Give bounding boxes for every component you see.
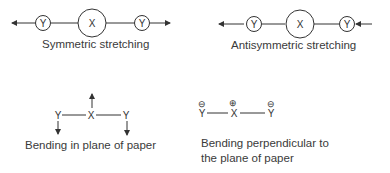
bending-perpendicular-caption-line2: the plane of paper	[201, 151, 329, 166]
svg-text:Y: Y	[268, 108, 275, 119]
bending-perpendicular-caption-line1: Bending perpendicular to	[201, 136, 329, 151]
svg-text:Y: Y	[55, 110, 62, 121]
antisymmetric-stretching-molecule: Y X Y	[219, 10, 372, 38]
bending-in-plane-caption: Bending in plane of paper	[25, 139, 156, 151]
svg-text:X: X	[231, 108, 238, 119]
symmetric-stretching-molecule: Y X Y	[12, 9, 170, 37]
svg-text:X: X	[88, 110, 95, 121]
bending-perpendicular-molecule: ⊖ ⊕ ⊖ Y X Y	[198, 98, 275, 119]
svg-text:Y: Y	[199, 108, 206, 119]
svg-text:X: X	[297, 19, 304, 30]
symmetric-stretching-caption: Symmetric stretching	[42, 38, 149, 50]
antisymmetric-stretching-caption: Antisymmetric stretching	[231, 39, 356, 51]
svg-text:Y: Y	[251, 19, 258, 30]
svg-text:Y: Y	[123, 110, 130, 121]
svg-text:⊕: ⊕	[229, 98, 237, 108]
svg-text:Y: Y	[40, 18, 47, 29]
svg-text:Y: Y	[139, 18, 146, 29]
bending-in-plane-molecule: Y X Y	[55, 94, 130, 135]
svg-text:Y: Y	[344, 19, 351, 30]
bending-perpendicular-caption: Bending perpendicular to the plane of pa…	[201, 136, 329, 166]
svg-text:X: X	[89, 18, 96, 29]
